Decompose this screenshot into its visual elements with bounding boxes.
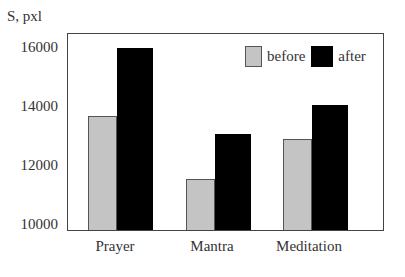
y-tick-14000: 14000: [0, 98, 58, 115]
legend-swatch-after: [311, 46, 333, 67]
bar-mantra-after: [215, 134, 251, 230]
category-label-prayer: Prayer: [70, 238, 160, 255]
category-label-mantra: Mantra: [167, 238, 257, 255]
bar-prayer-after: [117, 48, 153, 230]
bar-meditation-before: [283, 139, 312, 230]
y-axis-label: S, pxl: [7, 8, 42, 25]
legend: before after: [245, 46, 366, 67]
y-tick-12000: 12000: [0, 157, 58, 174]
category-label-meditation: Meditation: [264, 238, 354, 255]
bar-prayer-before: [88, 116, 117, 230]
legend-swatch-before: [245, 46, 262, 67]
bar-mantra-before: [186, 179, 215, 230]
bar-meditation-after: [312, 105, 348, 230]
y-tick-10000: 10000: [0, 216, 58, 233]
legend-label-after: after: [338, 48, 365, 65]
y-tick-16000: 16000: [0, 39, 58, 56]
legend-label-before: before: [267, 48, 305, 65]
